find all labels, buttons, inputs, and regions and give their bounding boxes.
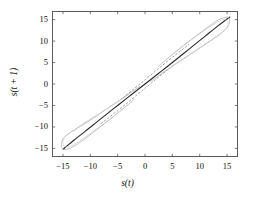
y-tick-label: 15	[22, 15, 48, 24]
x-tick-label: −15	[49, 162, 77, 171]
series-sparse-center-strand-lower	[101, 70, 167, 123]
x-tick-label: −10	[76, 162, 104, 171]
series-sparse-center-strand-upper	[123, 44, 189, 97]
y-tick-label: −5	[22, 101, 48, 110]
y-tick-label: 5	[22, 58, 48, 67]
data-series-layer	[61, 17, 230, 150]
y-tick-label: −10	[22, 122, 48, 131]
x-axis-label: s(t)	[0, 178, 255, 188]
figure-container: −15−10−5051015−15−10−5051015 s(t) s(t + …	[0, 0, 255, 199]
y-tick-label: 0	[22, 80, 48, 89]
x-tick-label: 5	[158, 162, 186, 171]
y-tick-label: −15	[22, 144, 48, 153]
series-hysteresis-loop-lower-inner	[63, 95, 129, 147]
x-tick-label: 0	[131, 162, 159, 171]
x-tick-label: 15	[213, 162, 241, 171]
series-main-diagonal-trace	[63, 17, 230, 149]
y-axis-label: s(t + 1)	[9, 42, 19, 122]
series-hysteresis-loop-lower-outer	[61, 87, 139, 150]
y-tick-label: 10	[22, 37, 48, 46]
series-hysteresis-loop-upper-inner	[161, 20, 228, 74]
x-tick-label: 10	[186, 162, 214, 171]
series-hysteresis-loop-upper-outer	[150, 17, 229, 81]
x-tick-label: −5	[104, 162, 132, 171]
